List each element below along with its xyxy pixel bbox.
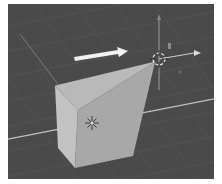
3d-viewport[interactable]: 3D Viewport	[8, 4, 214, 179]
gizmo-z-arrow-icon[interactable]	[157, 14, 161, 20]
gizmo-plane-handle[interactable]	[168, 43, 171, 49]
gizmo-x-axis[interactable]	[159, 53, 194, 59]
drag-arrow-icon	[74, 47, 128, 61]
gizmo-x-arrow-icon[interactable]	[194, 50, 201, 56]
mesh-cube[interactable]	[55, 62, 155, 168]
transform-gizmo[interactable]	[157, 14, 201, 90]
gizmo-dot	[179, 71, 182, 74]
